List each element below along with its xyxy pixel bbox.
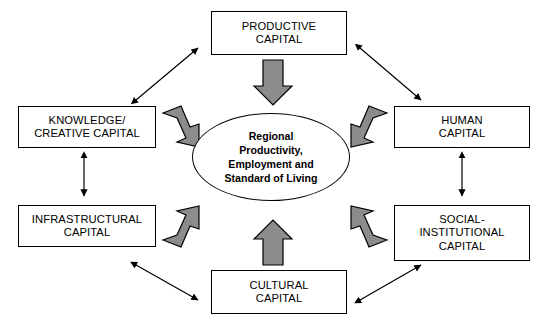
node-productive-capital: PRODUCTIVE CAPITAL [211, 11, 347, 55]
block-arrow-social-to-center [351, 206, 387, 247]
center-outcome-ellipse: Regional Productivity, Employment and St… [192, 113, 350, 201]
link-cultural-social [360, 265, 421, 300]
link-knowledge-productive [136, 48, 198, 100]
node-human-capital: HUMAN CAPITAL [394, 106, 530, 148]
block-arrow-cultural-to-center [254, 220, 292, 265]
block-arrow-infrastructural-to-center [163, 206, 199, 247]
node-infrastructural-capital-label: INFRASTRUCTURAL CAPITAL [32, 213, 142, 239]
link-productive-human [360, 48, 421, 100]
node-cultural-capital: CULTURAL CAPITAL [211, 270, 347, 314]
capital-framework-diagram: PRODUCTIVE CAPITAL KNOWLEDGE/ CREATIVE C… [0, 0, 541, 327]
block-arrow-productive-to-center [254, 60, 292, 105]
block-arrow-human-to-center [351, 106, 387, 147]
block-arrow-knowledge-to-center [163, 106, 199, 147]
node-knowledge-creative-capital-label: KNOWLEDGE/ CREATIVE CAPITAL [34, 114, 140, 140]
node-knowledge-creative-capital: KNOWLEDGE/ CREATIVE CAPITAL [18, 106, 156, 148]
link-infrastructural-cultural [136, 265, 198, 300]
node-social-institutional-capital-label: SOCIAL- INSTITUTIONAL CAPITAL [419, 213, 504, 253]
node-productive-capital-label: PRODUCTIVE CAPITAL [242, 20, 316, 46]
node-cultural-capital-label: CULTURAL CAPITAL [249, 279, 308, 305]
center-outcome-label: Regional Productivity, Employment and St… [225, 129, 318, 185]
node-infrastructural-capital: INFRASTRUCTURAL CAPITAL [18, 205, 156, 247]
node-human-capital-label: HUMAN CAPITAL [439, 114, 486, 140]
node-social-institutional-capital: SOCIAL- INSTITUTIONAL CAPITAL [394, 205, 530, 261]
